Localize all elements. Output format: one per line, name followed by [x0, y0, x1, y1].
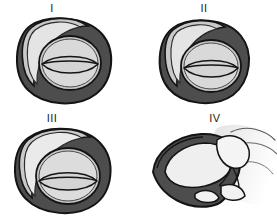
inner-aperture-group-2	[181, 40, 241, 92]
lens-aperture-3	[39, 173, 97, 190]
main-body-group-4	[153, 134, 249, 207]
inner-aperture-group-3	[36, 148, 100, 204]
figure-root: I	[0, 0, 277, 220]
panel-1: I	[0, 0, 138, 110]
panel-1-illustration	[0, 0, 138, 110]
panel-3: III	[0, 110, 138, 220]
inner-aperture-group-1	[39, 36, 101, 90]
panel-2: II	[139, 0, 277, 110]
panel-3-illustration	[0, 110, 138, 220]
panel-4: IV	[139, 110, 277, 220]
panel-4-illustration	[139, 110, 277, 220]
panel-2-illustration	[139, 0, 277, 110]
